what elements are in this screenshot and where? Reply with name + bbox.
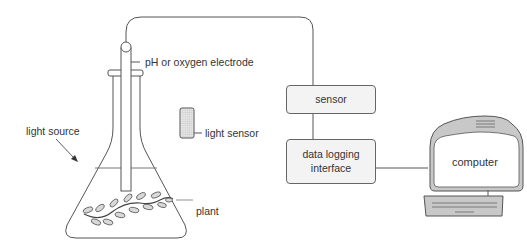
light-sensor xyxy=(180,108,202,138)
electrode-wire xyxy=(126,17,313,85)
light-sensor-label: light sensor xyxy=(205,128,259,139)
light-source-arrow-icon xyxy=(56,139,78,162)
plant-label: plant xyxy=(196,206,219,217)
sensor-box: sensor xyxy=(286,85,376,114)
data-logging-label-line1: data logging xyxy=(302,148,359,161)
data-logging-interface-box: data logging interface xyxy=(286,139,376,184)
electrode xyxy=(121,42,140,191)
computer-label: computer xyxy=(452,157,498,168)
sensor-box-label: sensor xyxy=(315,93,347,106)
data-logging-label-line2: interface xyxy=(311,162,351,175)
electrode-label: pH or oxygen electrode xyxy=(145,57,254,68)
light-source-label: light source xyxy=(26,126,80,137)
